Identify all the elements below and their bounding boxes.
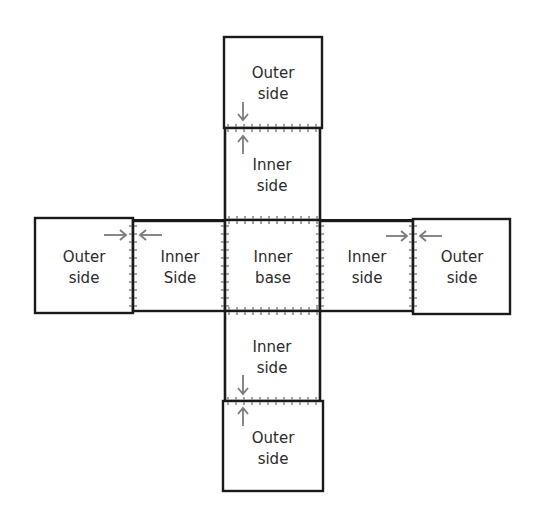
box-net-diagram: Outerside Innerside Outerside InnerSide … [0, 0, 533, 521]
panel-right-outer [413, 219, 510, 314]
panel-right-inner [320, 221, 413, 311]
panel-bottom-inner [225, 311, 320, 401]
